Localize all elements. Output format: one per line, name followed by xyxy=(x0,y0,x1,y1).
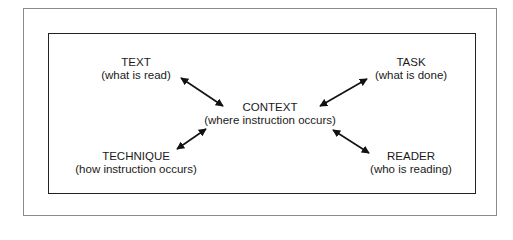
node-technique: TECHNIQUE (how instruction occurs) xyxy=(75,150,196,176)
node-technique-subtitle: (how instruction occurs) xyxy=(75,163,196,176)
node-text-subtitle: (what is read) xyxy=(101,69,171,82)
arrow-reader-context xyxy=(333,130,369,153)
node-text: TEXT (what is read) xyxy=(101,56,171,82)
node-context-title: CONTEXT xyxy=(204,101,336,114)
node-reader: READER (who is reading) xyxy=(370,150,452,176)
node-reader-title: READER xyxy=(370,150,452,163)
node-task-subtitle: (what is done) xyxy=(375,69,447,82)
node-reader-subtitle: (who is reading) xyxy=(370,163,452,176)
node-context: CONTEXT (where instruction occurs) xyxy=(204,101,336,127)
node-task: TASK (what is done) xyxy=(375,56,447,82)
arrow-technique-context xyxy=(177,129,206,149)
node-text-title: TEXT xyxy=(101,56,171,69)
node-context-subtitle: (where instruction occurs) xyxy=(204,114,336,127)
node-technique-title: TECHNIQUE xyxy=(75,150,196,163)
node-task-title: TASK xyxy=(375,56,447,69)
